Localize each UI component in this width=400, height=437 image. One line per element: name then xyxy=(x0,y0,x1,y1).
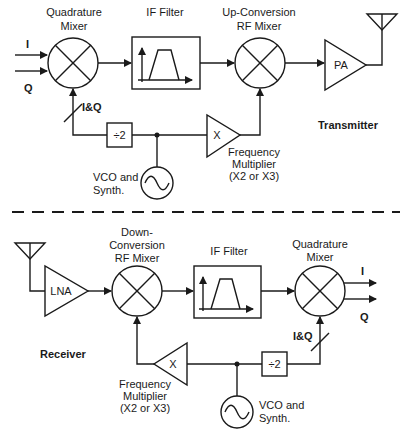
tx-quadrature-mixer-label-1: Quadrature xyxy=(46,6,102,18)
rx-downconversion-mixer-icon xyxy=(112,266,162,316)
tx-upconversion-mixer-label-2: RF Mixer xyxy=(237,20,282,32)
tx-pa-label: PA xyxy=(334,59,349,71)
tx-q-label: Q xyxy=(24,82,33,94)
tx-vco-label-2: Synth. xyxy=(93,184,124,196)
tx-multiplier-symbol: X xyxy=(213,129,221,141)
tx-antenna-icon xyxy=(367,14,397,30)
transmitter-section-label: Transmitter xyxy=(318,119,379,131)
rx-iq-label: I&Q xyxy=(293,330,313,342)
rx-multiplier-label-2: Multiplier xyxy=(123,390,167,402)
rx-multiplier-label-1: Frequency xyxy=(119,378,171,390)
tx-iq-label: I&Q xyxy=(82,101,102,113)
receiver-section: LNA Down- Conversion RF Mixer IF Filter … xyxy=(15,226,376,428)
tx-quadrature-mixer-icon xyxy=(48,38,98,88)
rx-vco-label-2: Synth. xyxy=(259,412,290,424)
tx-if-filter-icon xyxy=(132,37,200,89)
rx-quadrature-mixer-label-2: Mixer xyxy=(307,251,334,263)
tx-divider-label: ÷2 xyxy=(113,129,125,141)
rx-vco-icon xyxy=(221,396,253,428)
tx-i-label: I xyxy=(26,38,29,50)
rx-antenna-icon xyxy=(15,243,45,259)
tx-if-filter-label: IF Filter xyxy=(146,6,184,18)
rx-downconversion-mixer-label-1: Down- xyxy=(121,226,153,238)
rx-q-label: Q xyxy=(360,311,369,323)
tx-multiplier-label-3: (X2 or X3) xyxy=(229,170,279,182)
tx-upconversion-mixer-label-1: Up-Conversion xyxy=(222,6,295,18)
rx-if-filter-icon xyxy=(194,266,261,318)
tx-quadrature-mixer-label-2: Mixer xyxy=(61,20,88,32)
tx-antenna-feed xyxy=(366,29,382,65)
rx-quadrature-mixer-label-1: Quadrature xyxy=(292,238,348,250)
rx-downconversion-mixer-label-2: Conversion xyxy=(109,239,165,251)
rx-divider-label: ÷2 xyxy=(268,358,280,370)
receiver-section-label: Receiver xyxy=(40,348,87,360)
rx-lna-label: LNA xyxy=(50,285,72,297)
tx-multiplier-label-1: Frequency xyxy=(228,146,280,158)
rx-multiplier-symbol: X xyxy=(169,358,177,370)
tx-vco-label-1: VCO and xyxy=(93,171,138,183)
rx-downconversion-mixer-label-3: RF Mixer xyxy=(115,252,160,264)
transmitter-section: I Q Quadrature Mixer IF Filter Up-Conver… xyxy=(15,6,397,199)
tx-vco-icon xyxy=(141,167,173,199)
rx-i-label: I xyxy=(361,265,364,277)
rx-vco-label-1: VCO and xyxy=(259,399,304,411)
tx-multiplier-label-2: Multiplier xyxy=(232,158,276,170)
tx-upconversion-mixer-icon xyxy=(235,38,285,88)
rx-multiplier-label-3: (X2 or X3) xyxy=(120,402,170,414)
rx-quadrature-mixer-icon xyxy=(295,266,345,316)
transceiver-block-diagram: I Q Quadrature Mixer IF Filter Up-Conver… xyxy=(0,0,400,437)
rx-if-filter-label: IF Filter xyxy=(210,245,248,257)
